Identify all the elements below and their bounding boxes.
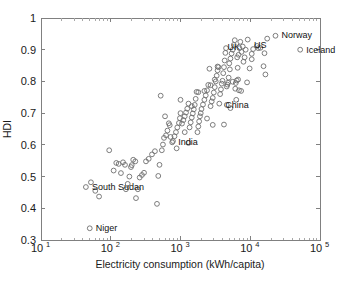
data-point [161,142,166,147]
plot-border [41,18,320,240]
y-tick-labels: 0.30.40.50.60.70.80.91 [21,12,36,246]
x-tick-label-base: 10 [101,242,113,254]
point-label: Niger [96,223,118,233]
data-point [186,101,191,106]
point-label: China [225,100,249,110]
data-point [262,51,267,56]
data-point [222,65,227,70]
data-point [226,75,231,80]
data-point [227,67,232,72]
data-point [97,194,102,199]
data-point [196,124,201,129]
data-point [273,33,278,38]
y-tick-label: 1 [30,12,36,24]
data-point [211,90,216,95]
data-point [219,87,224,92]
x-tick-label-base: 10 [310,242,322,254]
x-tick-label-exponent: 2 [116,240,120,249]
data-point [210,122,215,127]
data-point [188,120,193,125]
y-tick-label: 0.7 [21,107,36,119]
data-point [208,104,213,109]
y-tick-label: 0.9 [21,44,36,56]
data-point [187,125,192,130]
data-point [193,96,198,101]
data-point [119,171,124,176]
data-point [111,168,116,173]
data-point [192,103,197,108]
y-axis-title: HDI [1,120,13,138]
data-point [205,116,210,121]
data-point [217,101,222,106]
data-point [107,148,112,153]
figure-container: 101102103104105 0.30.40.50.60.70.80.91 N… [0,0,339,281]
x-tick-label-exponent: 1 [46,240,50,249]
data-point [249,51,254,56]
data-point [241,59,246,64]
data-point [228,56,233,61]
data-point [202,97,207,102]
data-point [227,61,232,66]
point-annotations: NorwayIcelandUSUKChinaIndiaSouth SudanNi… [92,30,335,233]
data-point [157,162,162,167]
data-point [236,77,241,82]
x-tick-labels: 101102103104105 [31,240,329,254]
data-point [222,58,227,63]
data-point [163,114,168,119]
x-tick-label-exponent: 3 [186,240,190,249]
data-point [218,92,223,97]
point-label: UK [227,42,240,52]
data-point [263,72,268,77]
data-point [298,47,303,52]
x-tick-label-exponent: 5 [325,240,329,249]
x-tick-label: 103 [170,240,189,254]
data-point [182,130,187,135]
data-point [247,66,252,71]
data-point [235,65,240,70]
data-point [158,93,163,98]
data-point [83,185,88,190]
y-tick-label: 0.5 [21,171,36,183]
data-point [175,125,180,130]
point-label: India [178,137,198,147]
data-point [222,122,227,127]
y-tick-label: 0.8 [21,75,36,87]
data-point [197,119,202,124]
data-point [134,196,139,201]
point-label: US [254,40,267,50]
scatter-plot: 101102103104105 0.30.40.50.60.70.80.91 N… [0,0,339,281]
data-point [178,111,183,116]
x-tick-label: 104 [240,240,259,254]
data-point [221,71,226,76]
data-point [219,81,224,86]
data-point [127,174,132,179]
y-tick-label: 0.4 [21,202,36,214]
axes-frame [41,18,320,240]
data-points [83,33,302,230]
x-tick-label: 102 [101,240,120,254]
point-label: Norway [281,30,312,40]
x-tick-label-exponent: 4 [255,240,259,249]
data-point [249,57,254,62]
data-point [150,152,155,157]
data-point [178,97,183,102]
data-point [87,226,92,231]
point-label: Iceland [306,45,335,55]
point-label: South Sudan [92,182,144,192]
data-point [245,80,250,85]
data-point [207,66,212,71]
data-point [261,64,266,69]
data-point [195,130,200,135]
data-point [159,148,164,153]
minor-ticks [62,18,317,240]
x-tick-label: 105 [310,240,329,254]
x-tick-label-base: 10 [170,242,182,254]
data-point [245,37,250,42]
data-point [156,174,161,179]
data-point [155,201,160,206]
major-ticks [41,18,320,240]
x-axis-title: Electricity consumption (kWh/capita) [95,258,264,270]
y-tick-label: 0.6 [21,139,36,151]
y-tick-label: 0.3 [21,234,36,246]
data-point [198,114,203,119]
